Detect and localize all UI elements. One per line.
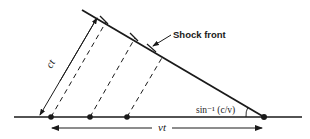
shock-front-line: [82, 10, 264, 117]
emission-point-1: [48, 114, 54, 120]
shock-front-diagram: ct Shock front sin⁻¹ (c/v) vt: [0, 0, 310, 139]
ct-arrow-top-head: [60, 18, 97, 81]
vt-label: vt: [158, 121, 167, 133]
dashed-ray-3: [127, 56, 163, 117]
angle-arc: [246, 107, 248, 117]
dashed-ray-1: [51, 22, 106, 117]
emission-point-3: [124, 114, 130, 120]
shock-front-label: Shock front: [173, 29, 227, 40]
source-point: [261, 114, 267, 120]
shock-front-pointer: [153, 35, 171, 46]
angle-label: sin⁻¹ (c/v): [196, 105, 235, 116]
emission-point-2: [87, 114, 93, 120]
angle-label-text: sin⁻¹ (c/v): [196, 105, 235, 116]
dashed-ray-2: [90, 38, 135, 117]
